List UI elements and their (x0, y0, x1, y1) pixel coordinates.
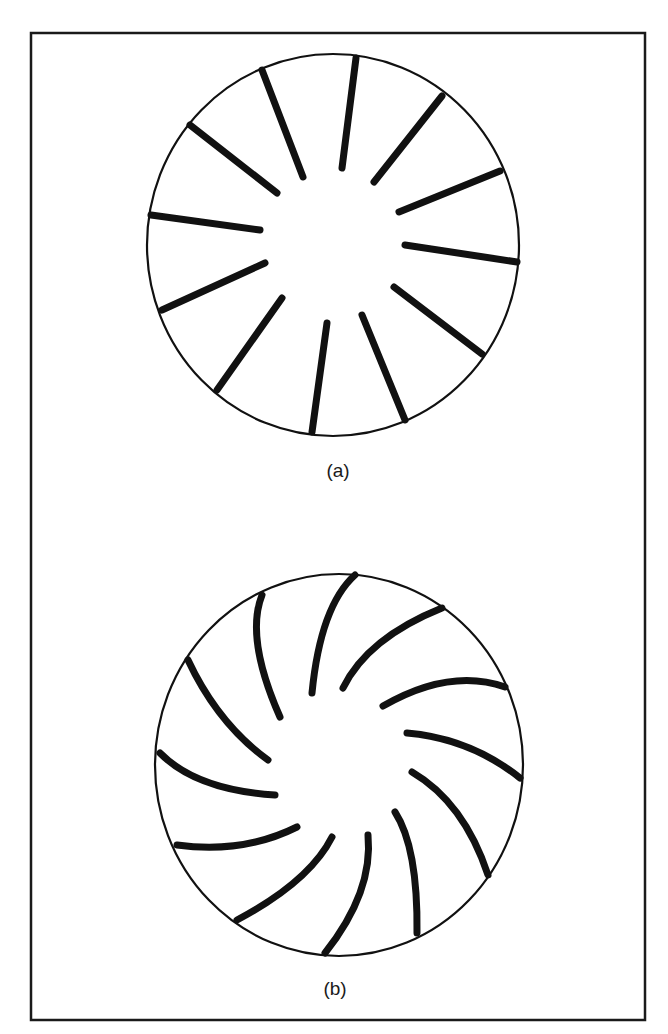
curved-blade-10 (160, 753, 275, 795)
caption-a: (a) (326, 460, 349, 482)
curved-blade-11 (188, 660, 268, 760)
radial-slit-4 (405, 245, 517, 262)
curved-blade-4 (407, 733, 520, 778)
caption-b: (b) (323, 978, 346, 1000)
panel-a-straight-slit-disk (147, 54, 519, 436)
disk-outline-b (155, 574, 523, 956)
radial-slit-2 (374, 96, 442, 182)
radial-slit-1 (342, 58, 356, 168)
curved-blade-7 (325, 835, 369, 953)
radial-slit-12 (262, 70, 303, 177)
panel-b-curved-blade-disk (155, 574, 523, 956)
curved-blade-5 (412, 772, 488, 875)
radial-slit-6 (362, 315, 405, 420)
curved-blade-6 (395, 812, 417, 933)
figure-frame (31, 33, 645, 1020)
radial-slit-11 (190, 125, 277, 193)
curved-blade-8 (237, 837, 332, 920)
radial-slit-5 (394, 287, 482, 354)
radial-slits-group (151, 58, 517, 432)
radial-slit-10 (151, 215, 260, 230)
curved-blade-9 (177, 827, 297, 847)
figure-canvas (0, 0, 668, 1034)
radial-slit-9 (162, 263, 265, 310)
curved-blade-2 (343, 608, 442, 688)
radial-slit-7 (312, 323, 327, 432)
curved-blades-group (160, 575, 520, 953)
radial-slit-8 (217, 298, 282, 390)
curved-blade-12 (256, 595, 280, 717)
curved-blade-3 (383, 680, 505, 706)
disk-outline-a (147, 54, 519, 436)
radial-slit-3 (399, 171, 500, 212)
